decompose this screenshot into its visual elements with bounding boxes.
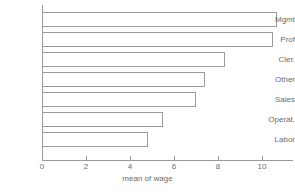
x-axis-title: mean of wage [0,174,295,183]
x-tick-label-0: 0 [32,162,52,172]
x-tick-label-10: 10 [252,162,272,172]
bar-operat [42,112,163,127]
x-tick-mark-4 [130,156,131,160]
category-label-mgmt: Mgmt [257,15,295,25]
x-tick-label-4: 4 [120,162,140,172]
x-axis-line [42,160,293,161]
bar-mgmt [42,12,277,27]
category-label-sales: Sales [257,95,295,105]
bar-labor [42,132,148,147]
bar-sales [42,92,196,107]
x-tick-mark-0 [42,156,43,160]
category-label-operat: Operat. [257,115,295,125]
x-tick-mark-2 [86,156,87,160]
x-tick-mark-10 [262,156,263,160]
bar-cler [42,52,225,67]
bar-prof [42,32,273,47]
x-tick-label-8: 8 [208,162,228,172]
x-tick-mark-6 [174,156,175,160]
x-tick-label-2: 2 [76,162,96,172]
category-label-cler: Cler. [257,55,295,65]
x-tick-label-6: 6 [164,162,184,172]
x-tick-mark-8 [218,156,219,160]
category-label-labor: Labor [257,135,295,145]
bar-chart: MgmtProfCler.OtherSalesOperat.Labor 0246… [0,0,295,193]
category-label-prof: Prof [257,35,295,45]
bar-other [42,72,205,87]
category-label-other: Other [257,75,295,85]
